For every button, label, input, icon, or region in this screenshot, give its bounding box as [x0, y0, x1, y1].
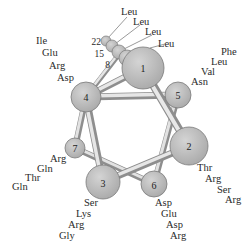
residue-label: Lys [76, 208, 91, 219]
position-circle-3: 3 [86, 165, 120, 199]
residue-label: Gln [12, 181, 29, 192]
residue-label: Arg [225, 194, 242, 205]
position-circle-1: 1 [122, 47, 164, 89]
residue-label: Ile [36, 35, 47, 46]
residue-label: Glu [42, 47, 59, 58]
residue-label: Arg [205, 173, 222, 184]
stack-number-8: 8 [105, 60, 110, 70]
residue-group-pos3: Ser Lys Arg Gly [59, 197, 99, 241]
residue-label: Ser [84, 197, 99, 208]
residue-label: Asp [155, 197, 172, 208]
residue-group-pos2: Thr Arg Ser Arg [197, 162, 242, 205]
residue-label: Leu [145, 26, 162, 37]
position-label-4: 4 [84, 92, 89, 103]
helical-wheel-diagram: 7 6 5 4 3 2 1 22 15 8 Leu Leu Leu Leu Ph… [0, 0, 250, 250]
position-circle-4: 4 [71, 82, 101, 112]
residue-label: Arg [170, 230, 187, 241]
residue-label: Arg [68, 219, 85, 230]
stack-number-15: 15 [95, 49, 105, 59]
position-label-6: 6 [152, 180, 157, 191]
position-label-2: 2 [187, 141, 192, 152]
residue-group-pos6: Asp Glu Asp Arg [155, 197, 187, 241]
residue-label: Thr [197, 162, 213, 173]
position-circle-7: 7 [65, 138, 85, 158]
position-label-1: 1 [141, 63, 146, 74]
position-circle-5: 5 [165, 82, 191, 108]
residue-label: Asn [191, 76, 209, 87]
position-circle-2: 2 [170, 127, 208, 165]
residue-group-pos4: Ile Glu Arg Asp [36, 35, 74, 83]
position-circle-6: 6 [141, 171, 167, 197]
residue-group-pos1: Leu Leu Leu Leu [121, 6, 175, 49]
residue-label: Asp [57, 72, 74, 83]
residue-group-pos5: Phe Leu Val Asn [191, 46, 237, 87]
position-label-3: 3 [101, 178, 106, 189]
residue-label: Gly [59, 230, 76, 241]
position-label-5: 5 [176, 90, 181, 101]
residue-label: Leu [158, 38, 175, 49]
residue-label: Glu [161, 208, 178, 219]
residue-group-pos7: Arg Gln Thr Gln [12, 153, 67, 192]
stack-number-22: 22 [92, 37, 102, 47]
residue-label: Asp [166, 219, 183, 230]
position-label-7: 7 [73, 143, 78, 154]
residue-label: Arg [49, 60, 66, 71]
